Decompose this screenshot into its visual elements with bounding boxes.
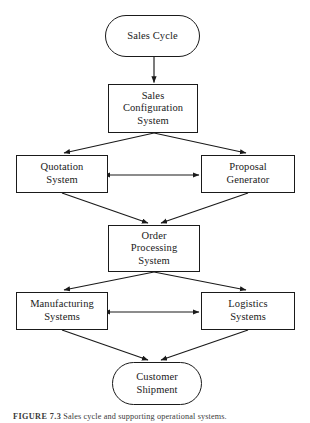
node-label: Sales Cycle (127, 30, 177, 43)
node-label: Systems (230, 311, 266, 324)
node-label: Processing (131, 242, 178, 255)
node-sales-cycle[interactable]: Sales Cycle (105, 15, 200, 57)
edge-logistics-to-customer-shipment (161, 330, 248, 360)
node-logistics-systems[interactable]: Logistics Systems (201, 292, 295, 330)
node-label: Quotation (41, 161, 84, 174)
edge-order-processing-to-logistics (154, 272, 246, 290)
edge-manufacturing-to-customer-shipment (62, 330, 148, 360)
edge-proposal-to-order-processing (161, 193, 248, 223)
node-order-processing-system[interactable]: Order Processing System (108, 225, 200, 272)
node-sales-configuration-system[interactable]: Sales Configuration System (108, 84, 198, 133)
node-quotation-system[interactable]: Quotation System (16, 155, 108, 193)
node-label: Shipment (136, 384, 177, 397)
node-label: Manufacturing (30, 298, 94, 311)
edge-sales-configuration-to-quotation (64, 133, 154, 153)
node-label: Order (142, 230, 167, 243)
figure-container: Sales Cycle Sales Configuration System Q… (0, 0, 310, 423)
node-customer-shipment[interactable]: Customer Shipment (112, 362, 202, 405)
node-label: System (137, 115, 169, 128)
node-proposal-generator[interactable]: Proposal Generator (201, 155, 295, 193)
node-label: Sales (142, 90, 165, 103)
node-label: System (138, 255, 170, 268)
edge-layer (0, 0, 310, 423)
figure-caption-label: FIGURE 7.3 (13, 412, 61, 421)
edge-quotation-to-order-processing (62, 193, 148, 223)
node-label: Proposal (229, 161, 267, 174)
node-label: Configuration (123, 102, 183, 115)
node-label: Logistics (228, 298, 267, 311)
edge-sales-configuration-to-proposal (154, 133, 246, 153)
node-label: Generator (227, 174, 270, 187)
edge-order-processing-to-manufacturing (64, 272, 154, 290)
node-label: Systems (44, 311, 80, 324)
node-manufacturing-systems[interactable]: Manufacturing Systems (16, 292, 108, 330)
figure-caption-text: Sales cycle and supporting operational s… (63, 412, 227, 421)
node-label: Customer (136, 371, 178, 384)
figure-caption: FIGURE 7.3 Sales cycle and supporting op… (13, 412, 303, 422)
node-label: System (46, 174, 78, 187)
